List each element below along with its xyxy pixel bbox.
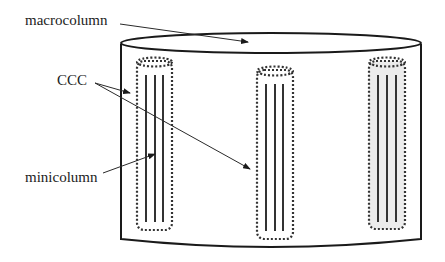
minicolumn-arrow bbox=[103, 154, 155, 173]
label-ccc: CCC bbox=[57, 72, 87, 88]
ccc-arrow-left bbox=[95, 83, 130, 93]
minicolumn-center bbox=[257, 67, 293, 240]
ccc-top-ellipse bbox=[257, 67, 293, 76]
label-macrocolumn: macrocolumn bbox=[25, 12, 108, 28]
cylinder-top-ellipse bbox=[121, 33, 421, 53]
minicolumn-right bbox=[369, 58, 405, 230]
macrocolumn-diagram: macrocolumn CCC minicolumn bbox=[0, 0, 445, 262]
minicolumn-left bbox=[137, 58, 172, 231]
label-minicolumn: minicolumn bbox=[25, 169, 98, 185]
